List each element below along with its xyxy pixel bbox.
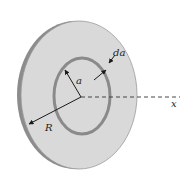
label-da: da: [113, 47, 125, 58]
label-x: x: [171, 98, 177, 109]
disk-face: [21, 21, 137, 169]
disk-diagram: a da R x: [0, 0, 187, 183]
label-a: a: [76, 75, 82, 86]
label-R: R: [44, 122, 53, 133]
